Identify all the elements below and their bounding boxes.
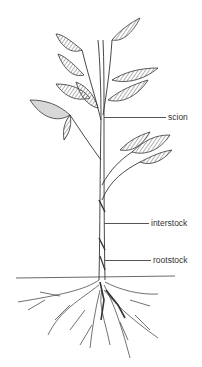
label-rootstock: rootstock (153, 255, 188, 265)
interstock-leader-line (104, 223, 149, 224)
roots (18, 280, 158, 358)
scion-leader-line (104, 117, 166, 118)
leaf (58, 54, 84, 76)
leaf (30, 100, 70, 119)
label-scion: scion (168, 112, 188, 122)
ground-line (16, 276, 175, 278)
rootstock-leader-line (104, 260, 151, 261)
leaf (108, 80, 148, 101)
label-interstock: interstock (151, 218, 187, 228)
leaf (63, 115, 70, 140)
plant-illustration (0, 0, 202, 367)
leaf (112, 68, 158, 82)
leaf (112, 18, 140, 40)
leaf (56, 34, 82, 51)
